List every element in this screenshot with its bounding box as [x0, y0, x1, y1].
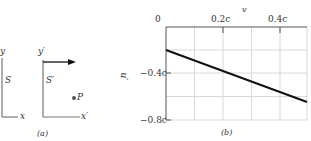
- y-tick-neg-0-4c: −0.4c: [140, 69, 167, 78]
- data-line: [166, 50, 307, 102]
- x-tick-0: 0: [155, 15, 161, 24]
- x-tick-0-4c: 0.4c: [268, 15, 287, 24]
- panel-b-caption: (b): [221, 129, 232, 137]
- x-axis-title: v: [242, 6, 247, 14]
- y-axis-title: u′: [119, 73, 128, 81]
- x-tick-0-2c: 0.2c: [211, 15, 230, 24]
- y-tick-neg-0-8c: −0.8c: [140, 116, 167, 125]
